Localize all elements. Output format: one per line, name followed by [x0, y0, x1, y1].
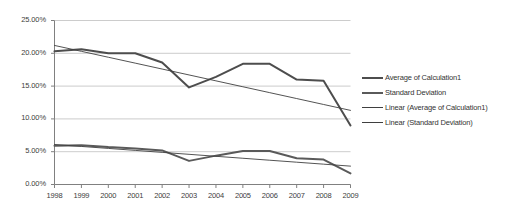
series-line-0 [55, 49, 351, 125]
axis-lines [55, 21, 351, 185]
series-lines [55, 45, 351, 173]
legend-color-swatch [362, 103, 383, 112]
legend-color-swatch [362, 88, 383, 97]
series-line-2 [55, 45, 351, 110]
y-axis-tick-label: 25.00% [2, 15, 46, 24]
legend-color-swatch [362, 118, 383, 127]
y-axis-tick-label: 5.00% [2, 146, 46, 155]
x-axis-ticks [55, 185, 351, 189]
legend-item[interactable]: Linear (Average of Calculation1) [362, 100, 506, 114]
x-axis-tick-label: 2004 [201, 191, 231, 200]
gridlines [55, 21, 351, 152]
legend-label: Linear (Standard Deviation) [385, 118, 473, 127]
legend-label: Average of Calculation1 [385, 73, 461, 82]
x-axis-tick-label: 2005 [228, 191, 258, 200]
x-axis-tick-label: 2001 [120, 191, 150, 200]
legend-label: Linear (Average of Calculation1) [385, 103, 488, 112]
series-line-1 [55, 145, 351, 173]
legend-label: Standard Deviation [385, 88, 446, 97]
legend-item[interactable]: Standard Deviation [362, 85, 506, 99]
legend-item[interactable]: Average of Calculation1 [362, 70, 506, 84]
y-axis-ticks [51, 21, 55, 185]
chart-legend: Average of Calculation1Standard Deviatio… [362, 70, 506, 130]
y-axis-tick-label: 15.00% [2, 81, 46, 90]
x-axis-tick-label: 1999 [66, 191, 96, 200]
legend-color-swatch [362, 73, 383, 82]
x-axis-tick-label: 2009 [336, 191, 366, 200]
x-axis-tick-label: 2002 [147, 191, 177, 200]
x-axis-tick-label: 2006 [255, 191, 285, 200]
y-axis-tick-label: 0.00% [2, 179, 46, 188]
legend-item[interactable]: Linear (Standard Deviation) [362, 115, 506, 129]
x-axis-tick-label: 2007 [282, 191, 312, 200]
y-axis-tick-label: 10.00% [2, 113, 46, 122]
chart-container: 25.00%20.00%15.00%10.00%5.00%0.00% 19981… [0, 0, 506, 214]
series-line-3 [55, 144, 351, 166]
x-axis-tick-label: 2008 [309, 191, 339, 200]
x-axis-tick-label: 1998 [40, 191, 70, 200]
x-axis-tick-label: 2003 [174, 191, 204, 200]
x-axis-tick-label: 2000 [93, 191, 123, 200]
y-axis-tick-label: 20.00% [2, 48, 46, 57]
